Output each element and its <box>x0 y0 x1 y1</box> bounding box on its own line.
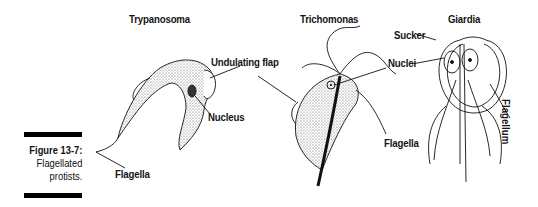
label-sucker: Sucker <box>394 29 425 41</box>
title-giardia: Giardia <box>448 13 480 25</box>
giardia-drawing <box>412 34 510 182</box>
trichomonas-drawing <box>258 26 396 186</box>
label-nucleus: Nucleus <box>208 111 244 123</box>
label-flagella-trichomonas: Flagella <box>384 137 419 149</box>
protists-illustration <box>0 0 538 207</box>
title-trypanosoma: Trypanosoma <box>129 13 190 25</box>
title-trichomonas: Trichomonas <box>300 13 358 25</box>
label-nuclei: Nuclei <box>388 57 416 69</box>
label-undulating-flap: Undulating flap <box>211 56 279 68</box>
label-flagellum: Flagellum <box>500 99 512 144</box>
label-flagella-trypanosoma: Flagella <box>115 168 150 180</box>
